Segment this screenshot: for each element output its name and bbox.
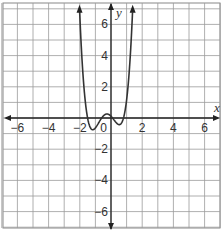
x-tick-label: 2 bbox=[139, 121, 146, 135]
y-tick-label: −4 bbox=[94, 173, 108, 187]
x-axis-label: x bbox=[213, 100, 220, 115]
y-axis-label: y bbox=[114, 5, 122, 20]
x-tick-label: 6 bbox=[201, 121, 208, 135]
y-tick-label: −2 bbox=[94, 142, 108, 156]
x-tick-label: 0 bbox=[100, 121, 107, 135]
y-tick-label: −6 bbox=[94, 205, 108, 219]
y-tick-label: 2 bbox=[101, 80, 108, 94]
x-tick-label: −6 bbox=[11, 121, 25, 135]
x-tick-label: −4 bbox=[42, 121, 56, 135]
y-tick-label: 6 bbox=[101, 17, 108, 31]
function-graph: xy−6−4−20246642−2−4−6 bbox=[0, 0, 223, 231]
x-tick-label: 4 bbox=[170, 121, 177, 135]
y-tick-label: 4 bbox=[101, 49, 108, 63]
x-tick-label: −2 bbox=[73, 121, 87, 135]
